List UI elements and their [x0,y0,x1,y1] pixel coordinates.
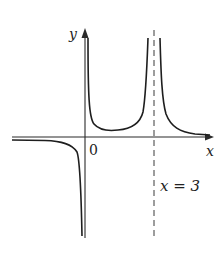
curve-right-branch [160,38,210,135]
y-axis-arrow-icon [82,28,89,38]
curve-middle-branch [88,38,148,130]
origin-label: 0 [89,143,98,157]
graph [0,0,224,259]
x-axis-label: x [206,144,214,158]
y-axis-label: y [69,27,77,41]
asymptote-label: x = 3 [160,179,200,194]
curve-left-branch [12,140,82,236]
